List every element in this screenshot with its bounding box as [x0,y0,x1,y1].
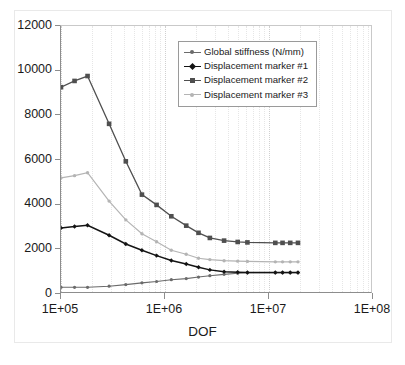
data-point [208,274,211,277]
legend-item-3: Displacement marker #2 (µm) [184,73,311,87]
data-point [246,260,249,263]
data-point [196,231,201,236]
x-tick-label: 1E+08 [332,302,405,316]
legend-item-4: Displacement marker #3 (µm) [184,88,311,102]
legend-swatch-icon [184,90,201,100]
data-point [197,257,200,260]
data-point [208,268,212,272]
data-point [107,285,110,288]
data-point [85,74,90,79]
data-point [289,260,292,263]
data-point [169,214,174,219]
data-point [222,269,226,273]
series-1 [61,271,300,289]
legend-item-1: Global stiffness (N/mm) [184,45,311,59]
data-point [196,265,200,269]
chart-legend: Global stiffness (N/mm)Displacement mark… [178,41,317,107]
data-point [107,199,110,202]
x-axis-title: DOF [0,324,405,339]
legend-swatch-icon [184,75,201,85]
data-point [140,232,143,235]
data-point [288,270,292,274]
legend-label: Displacement marker #1 (µm) [204,59,311,73]
x-tick-mark [372,293,373,299]
data-point [281,260,284,263]
data-point [208,236,213,241]
y-tick-mark [55,25,60,26]
data-point [61,85,63,90]
legend-swatch-icon [184,47,201,57]
data-point [185,253,188,256]
data-point [222,259,225,262]
data-point [184,262,188,266]
data-point [140,192,145,197]
data-point [273,241,278,246]
y-tick-label: 4000 [0,197,52,209]
data-point [86,171,89,174]
y-tick-label: 8000 [0,108,52,120]
y-tick-label: 12000 [0,19,52,31]
series-line [61,173,298,262]
data-point [235,240,240,245]
y-tick-mark [55,159,60,160]
data-point [184,223,189,228]
data-point [245,240,250,245]
legend-label: Global stiffness (N/mm) [204,45,304,59]
data-point [73,286,76,289]
legend-swatch-icon [184,61,201,71]
chart-figure: 020004000600080001000012000 1E+051E+061E… [0,0,405,365]
legend-item-2: Displacement marker #1 (µm) [184,59,311,73]
data-point [274,260,277,263]
data-point [72,79,77,84]
series-4 [61,171,300,264]
data-point [236,259,239,262]
series-line [61,273,298,288]
data-point [280,241,285,246]
data-point [61,226,63,230]
data-point [124,283,127,286]
data-point [61,176,63,179]
data-point [208,258,211,261]
data-point [280,270,284,274]
x-tick-mark [164,293,165,299]
data-point [222,238,227,243]
x-tick-label: 1E+06 [124,302,204,316]
series-2 [61,223,300,275]
data-point [61,286,63,289]
data-point [154,253,158,257]
y-tick-mark [55,204,60,205]
data-point [140,281,143,284]
data-point [296,260,299,263]
y-tick-label: 6000 [0,153,52,165]
data-point [170,278,173,281]
data-point [155,280,158,283]
data-point [296,270,300,274]
data-point [140,248,144,252]
legend-label: Displacement marker #3 (µm) [204,88,311,102]
data-point [169,258,173,262]
data-point [86,286,89,289]
data-point [245,270,249,274]
data-point [185,277,188,280]
y-tick-mark [55,248,60,249]
x-tick-label: 1E+07 [228,302,308,316]
data-point [197,275,200,278]
y-tick-label: 2000 [0,242,52,254]
data-point [155,240,158,243]
data-point [72,224,76,228]
data-point [296,241,301,246]
data-point [273,270,277,274]
y-tick-label: 10000 [0,63,52,75]
series-line [61,225,298,272]
y-tick-mark [55,70,60,71]
y-tick-mark [55,114,60,115]
data-point [154,203,159,208]
data-point [288,241,293,246]
x-tick-label: 1E+05 [20,302,100,316]
data-point [124,218,127,221]
data-point [170,249,173,252]
legend-label: Displacement marker #2 (µm) [204,73,311,87]
data-point [73,174,76,177]
data-point [124,159,129,164]
x-tick-mark [268,293,269,299]
